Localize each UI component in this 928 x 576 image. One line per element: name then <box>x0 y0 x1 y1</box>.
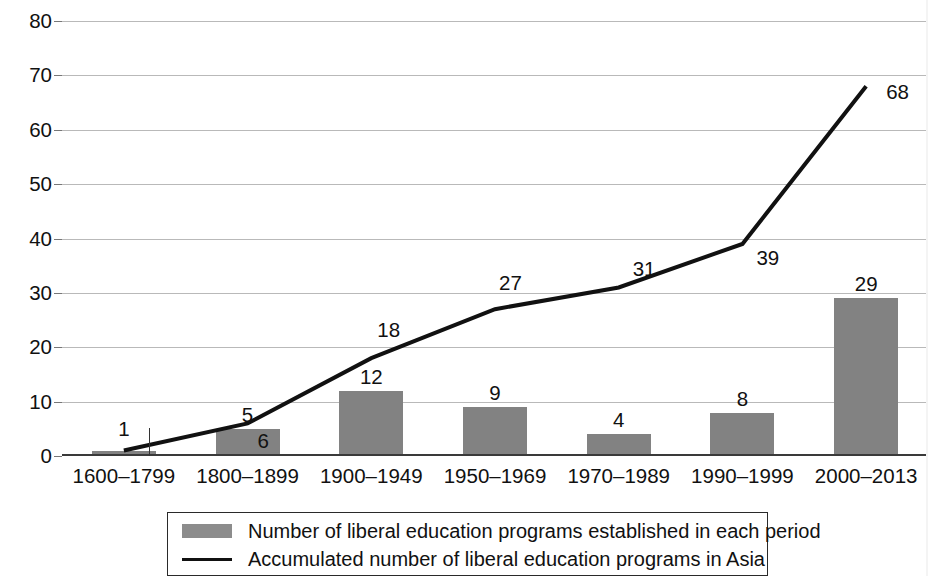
y-axis-tick-label: 80 <box>0 11 52 32</box>
y-axis-tick-mark <box>54 21 62 22</box>
y-axis-tick-label: 10 <box>0 391 52 412</box>
y-axis: 01020304050607080 <box>0 21 52 456</box>
x-axis-tick-label: 1900–1949 <box>320 464 423 488</box>
x-axis-labels: 1600–17991800–18991900–19491950–19691970… <box>62 464 928 494</box>
bar-value-label: 9 <box>489 381 500 405</box>
x-axis-tick-label: 1600–1799 <box>73 464 176 488</box>
y-axis-tick-label: 20 <box>0 337 52 358</box>
line-value-label: 31 <box>633 257 656 281</box>
bar-value-label: 12 <box>360 365 383 389</box>
line-value-label: 39 <box>756 246 779 270</box>
legend-line-swatch-icon <box>182 558 232 561</box>
y-axis-tick-label: 50 <box>0 174 52 195</box>
bar-value-label: 8 <box>737 387 748 411</box>
y-axis-tick-mark <box>54 402 62 403</box>
legend-entry-line: Accumulated number of liberal education … <box>182 546 765 572</box>
y-axis-tick-label: 30 <box>0 283 52 304</box>
x-axis-tick-label: 1950–1969 <box>444 464 547 488</box>
line-value-label: 27 <box>499 271 522 295</box>
chart-legend: Number of liberal education programs est… <box>167 512 768 576</box>
legend-entry-bar: Number of liberal education programs est… <box>182 518 821 544</box>
y-axis-tick-mark <box>54 130 62 131</box>
y-axis-tick-mark <box>54 239 62 240</box>
x-axis-tick-label: 1970–1989 <box>567 464 670 488</box>
legend-label-bar: Number of liberal education programs est… <box>248 520 821 543</box>
bar-value-label: 1 <box>118 417 129 441</box>
y-axis-tick-label: 70 <box>0 65 52 86</box>
y-axis-tick-mark <box>54 293 62 294</box>
y-axis-tick-mark <box>54 184 62 185</box>
x-axis-tick-label: 1990–1999 <box>691 464 794 488</box>
legend-bar-swatch-icon <box>182 524 232 538</box>
bar-value-label: 5 <box>242 403 253 427</box>
line-value-label: 6 <box>258 429 269 453</box>
x-axis-tick-label: 2000–2013 <box>815 464 918 488</box>
bar-value-label: 4 <box>613 408 624 432</box>
y-axis-tick-label: 0 <box>0 446 52 467</box>
y-axis-tick-mark <box>54 347 62 348</box>
y-axis-tick-mark <box>54 456 62 457</box>
line-value-label: 68 <box>886 80 909 104</box>
y-axis-tick-label: 40 <box>0 228 52 249</box>
legend-label-line: Accumulated number of liberal education … <box>248 548 765 571</box>
x-axis-tick-label: 1800–1899 <box>196 464 299 488</box>
plot-area: 151294829 61827313968 <box>62 21 928 456</box>
bar-value-label: 29 <box>855 272 878 296</box>
y-axis-tick-label: 60 <box>0 120 52 141</box>
y-axis-tick-mark <box>54 75 62 76</box>
x-axis-line <box>62 454 928 456</box>
annotation-leader-line <box>149 428 151 456</box>
chart-figure: 01020304050607080 151294829 61827313968 … <box>0 0 928 576</box>
line-value-label: 18 <box>377 318 400 342</box>
